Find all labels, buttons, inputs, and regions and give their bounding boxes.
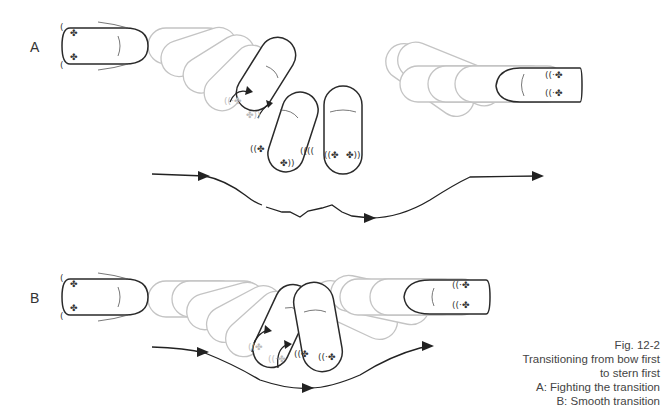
- thruster-icon: ((·✤: [452, 280, 470, 290]
- thruster-icon: ✤: [70, 279, 78, 289]
- caption-figure-number: Fig. 12-2: [522, 338, 660, 352]
- svg-text:((✤: ((✤: [248, 342, 263, 352]
- svg-text:((·✤: ((·✤: [318, 352, 336, 362]
- thruster-icon: ✤: [70, 303, 78, 313]
- thruster-icon: ((·✤: [452, 300, 470, 310]
- thruster-icon: ((·✤: [545, 70, 563, 80]
- thruster-icon: ((·✤: [545, 88, 563, 98]
- svg-text:((✤: ((✤: [294, 349, 309, 359]
- panel-b: ✤ ✤ ( ( ((✤ ((·✤ ((✤ ((·✤ ((·✤ ((·✤: [30, 272, 490, 393]
- thruster-icon: ✤: [70, 52, 78, 62]
- caption-title-line1: Transitioning from bow first: [522, 352, 660, 366]
- hull-end-a: ((·✤ ((·✤: [496, 68, 582, 102]
- svg-text:((✤: ((✤: [250, 144, 265, 154]
- trajectory-a: [152, 171, 544, 223]
- svg-text:((✤: ((✤: [324, 150, 339, 160]
- panel-a: ✤ ✤ ( ( ((·✤ ✤)) ((✤ ✤)) (((( ((✤: [30, 22, 582, 223]
- svg-text:(: (: [60, 273, 64, 283]
- svg-text:(: (: [60, 311, 64, 321]
- figure-caption: Fig. 12-2 Transitioning from bow first t…: [522, 338, 660, 408]
- svg-text:((·✤: ((·✤: [268, 354, 286, 364]
- svg-text:((·✤: ((·✤: [224, 96, 242, 106]
- svg-text:✤)): ✤)): [246, 110, 261, 120]
- svg-text:✤)): ✤)): [346, 150, 361, 160]
- hull-end-b: ((·✤ ((·✤: [404, 280, 490, 314]
- hull-start-b: ✤ ✤ ( (: [60, 273, 148, 321]
- svg-text:(: (: [60, 22, 64, 32]
- trajectory-b: [152, 341, 434, 393]
- svg-text:✤)): ✤)): [280, 158, 295, 168]
- hull-start-a: ✤ ✤ ( (: [60, 22, 148, 70]
- svg-text:((((: ((((: [300, 146, 314, 156]
- caption-panel-a: A: Fighting the transition: [522, 380, 660, 394]
- caption-panel-b: B: Smooth transition: [522, 394, 660, 408]
- panel-a-label: A: [30, 39, 40, 55]
- thruster-icon: ✤: [70, 28, 78, 38]
- caption-title-line2: to stern first: [522, 366, 660, 380]
- panel-b-label: B: [30, 290, 39, 306]
- svg-text:(: (: [60, 60, 64, 70]
